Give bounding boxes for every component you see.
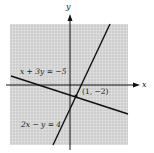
intersection-label: (1, −2) <box>82 88 108 96</box>
x-axis-label: x <box>142 81 147 89</box>
y-axis-arrow-icon <box>68 14 73 21</box>
equation-label-1: x + 3y = −5 <box>20 68 66 76</box>
intersection-point <box>74 94 77 97</box>
x-axis-arrow-icon <box>133 83 140 88</box>
equation-label-2: 2x − y = 4 <box>21 121 61 129</box>
y-axis-label: y <box>66 3 71 11</box>
system-of-equations-graph <box>0 0 154 153</box>
